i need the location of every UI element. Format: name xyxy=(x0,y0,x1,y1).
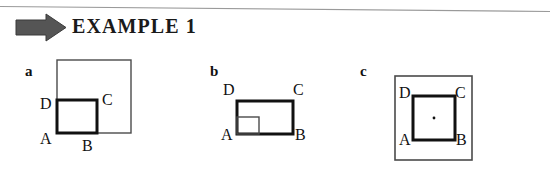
panel-a-drawing xyxy=(10,55,180,165)
top-divider xyxy=(0,5,550,15)
panel-c-label-D: D xyxy=(399,85,411,101)
example-figure-page: EXAMPLE 1 a D C A B b D C A B c xyxy=(0,0,550,169)
figure-panel-c: c D C A B xyxy=(345,55,540,165)
panel-letter-c: c xyxy=(360,63,367,80)
panel-letter-b: b xyxy=(210,63,218,80)
panel-a-label-C: C xyxy=(102,92,113,108)
panel-a-label-D: D xyxy=(40,96,52,112)
panel-c-label-B: B xyxy=(456,132,467,148)
figure-panel-b: b D C A B xyxy=(195,55,340,165)
panel-b-label-A: A xyxy=(221,127,233,143)
panel-letter-a: a xyxy=(25,63,33,80)
panel-a-label-A: A xyxy=(40,131,52,147)
panel-c-drawing xyxy=(345,55,540,165)
panel-b-label-D: D xyxy=(223,82,235,98)
panel-c-label-A: A xyxy=(399,132,411,148)
panel-b-label-C: C xyxy=(293,82,304,98)
figure-panel-a: a D C A B xyxy=(10,55,180,165)
right-arrow-icon xyxy=(16,14,66,42)
panel-c-label-C: C xyxy=(455,85,466,101)
panel-a-label-B: B xyxy=(82,138,93,154)
panel-b-label-B: B xyxy=(295,127,306,143)
page-title: EXAMPLE 1 xyxy=(72,15,197,38)
